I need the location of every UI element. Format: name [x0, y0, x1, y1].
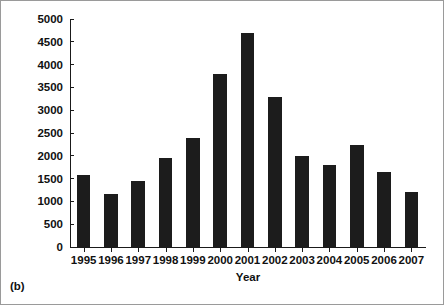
x-tick-label: 1995: [70, 253, 97, 267]
x-tick-mark: [302, 248, 303, 252]
x-tick-label: 2006: [370, 253, 397, 267]
x-tick-mark: [220, 248, 221, 252]
x-tick-label: 2003: [288, 253, 315, 267]
y-tick-label: 3500: [37, 79, 63, 95]
y-tick-label: 4500: [37, 34, 63, 50]
plot-area: 0500100015002000250030003500400045005000: [70, 19, 425, 247]
bar-2002: [268, 97, 282, 247]
y-tick-mark: [70, 133, 74, 134]
bar-2006: [377, 172, 391, 247]
x-tick-label: 1997: [125, 253, 152, 267]
x-tick-label: 2005: [343, 253, 370, 267]
y-tick-label: 3000: [37, 102, 63, 118]
y-tick-mark: [70, 19, 74, 20]
x-tick-label: 2000: [207, 253, 234, 267]
bar-1999: [186, 138, 200, 247]
x-tick-mark: [384, 248, 385, 252]
bar-1997: [131, 181, 145, 247]
x-tick-label: 2002: [261, 253, 288, 267]
x-tick-mark: [166, 248, 167, 252]
y-tick-label: 5000: [37, 11, 63, 27]
x-tick-label: 2001: [234, 253, 261, 267]
x-tick-label: 1996: [97, 253, 124, 267]
y-tick-label: 2000: [37, 148, 63, 164]
x-tick-label: 2004: [316, 253, 343, 267]
y-tick-mark: [70, 201, 74, 202]
y-tick-mark: [70, 155, 74, 156]
y-tick-label: 1000: [37, 193, 63, 209]
x-tick-mark: [248, 248, 249, 252]
x-tick-mark: [411, 248, 412, 252]
bar-1998: [159, 158, 173, 247]
x-axis-title: Year: [70, 271, 426, 283]
y-tick-mark: [70, 247, 74, 248]
bar-1995: [77, 175, 91, 247]
y-tick-label: 0: [57, 239, 63, 255]
x-tick-mark: [275, 248, 276, 252]
y-tick-mark: [70, 224, 74, 225]
x-tick-mark: [111, 248, 112, 252]
x-tick-mark: [84, 248, 85, 252]
bar-2000: [213, 74, 227, 247]
x-tick-label: 1998: [152, 253, 179, 267]
x-tick-label: 2007: [398, 253, 425, 267]
y-tick-mark: [70, 87, 74, 88]
x-tick-mark: [357, 248, 358, 252]
y-tick-mark: [70, 178, 74, 179]
y-tick-label: 2500: [37, 125, 63, 141]
x-tick-mark: [329, 248, 330, 252]
bar-1996: [104, 194, 118, 247]
x-tick-mark: [193, 248, 194, 252]
y-tick-mark: [70, 64, 74, 65]
bar-2004: [323, 165, 337, 247]
y-tick-mark: [70, 110, 74, 111]
y-tick-mark: [70, 41, 74, 42]
bar-2005: [350, 145, 364, 247]
panel-caption: (b): [10, 280, 25, 292]
y-tick-label: 500: [44, 216, 63, 232]
figure-panel: New Venture Capital Funds Raised ($ mill…: [0, 0, 444, 305]
bar-2003: [295, 156, 309, 247]
x-tick-label: 1999: [179, 253, 206, 267]
y-tick-label: 4000: [37, 57, 63, 73]
y-tick-label: 1500: [37, 171, 63, 187]
bar-2001: [241, 33, 255, 247]
bar-2007: [405, 192, 419, 247]
x-tick-mark: [138, 248, 139, 252]
